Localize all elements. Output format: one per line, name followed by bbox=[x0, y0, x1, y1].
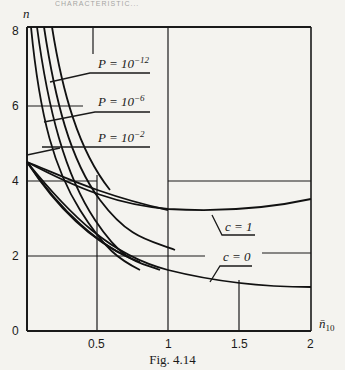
leader-lines bbox=[27, 73, 255, 282]
curves bbox=[27, 27, 311, 287]
y-tick-8: 8 bbox=[12, 24, 19, 38]
y-tick-6: 6 bbox=[12, 99, 19, 113]
label-p-1e-2: P = 10−2 bbox=[97, 129, 145, 145]
y-tick-2: 2 bbox=[12, 249, 19, 263]
chart: P = 10−12 P = 10−6 P = 10−2 c = 1 c = 0 … bbox=[0, 0, 345, 370]
figure-caption: Fig. 4.14 bbox=[0, 352, 345, 368]
label-p-1e-6: P = 10−6 bbox=[97, 93, 145, 109]
y-axis-label: n bbox=[23, 6, 30, 21]
x-tick-2: 2 bbox=[307, 337, 314, 351]
x-tick-1: 1 bbox=[165, 337, 172, 351]
y-tick-4: 4 bbox=[12, 174, 19, 188]
label-p-1e-12: P = 10−12 bbox=[97, 55, 150, 71]
x-axis-label: n̄10 bbox=[319, 316, 335, 333]
label-c1: c = 1 bbox=[225, 219, 253, 234]
x-tick-0.5: 0.5 bbox=[88, 337, 105, 351]
y-tick-0: 0 bbox=[12, 324, 19, 338]
label-c0: c = 0 bbox=[223, 249, 251, 264]
x-tick-1.5: 1.5 bbox=[231, 337, 248, 351]
